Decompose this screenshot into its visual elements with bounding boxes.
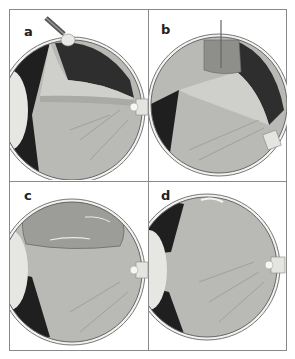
eye-illustration-c (10, 182, 148, 352)
panel-label-d: d (161, 188, 170, 203)
panel-c: c (10, 182, 148, 352)
panel-label-a: a (24, 24, 33, 39)
panel-label-b: b (161, 22, 170, 37)
panel-d: d (149, 182, 287, 352)
panel-b: b (149, 10, 287, 180)
panel-label-c: c (24, 188, 32, 203)
panel-a: a (10, 10, 148, 180)
eye-illustration-d (149, 182, 287, 352)
